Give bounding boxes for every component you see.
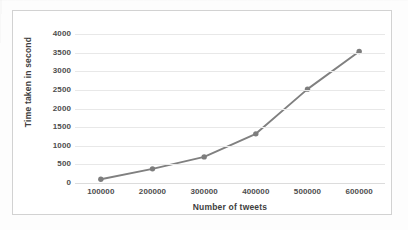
- data-point-100000: [98, 177, 103, 182]
- gridline-3000: [75, 71, 385, 72]
- gridline-500: [75, 164, 385, 165]
- x-axis-tick-labels: 100000200000300000400000500000600000: [75, 187, 385, 199]
- line-series-markers: [98, 49, 362, 182]
- y-tick-label-500: 500: [27, 160, 71, 168]
- gridline-4000: [75, 34, 385, 35]
- y-tick-label-3500: 3500: [27, 49, 71, 57]
- gridline-1000: [75, 146, 385, 147]
- y-tick-label-1500: 1500: [27, 123, 71, 131]
- gridline-0: [75, 183, 385, 184]
- data-point-200000: [150, 166, 155, 171]
- y-tick-label-3000: 3000: [27, 67, 71, 75]
- y-tick-label-2500: 2500: [27, 86, 71, 94]
- chart-frame: Time taken in second 0500100015002000250…: [12, 10, 392, 215]
- y-tick-label-4000: 4000: [27, 30, 71, 38]
- x-tick-label-600000: 600000: [329, 187, 389, 197]
- x-axis-title: Number of tweets: [75, 202, 385, 212]
- gridline-1500: [75, 127, 385, 128]
- y-tick-label-1000: 1000: [27, 142, 71, 150]
- data-point-300000: [201, 154, 206, 159]
- y-axis-tick-labels: 05001000150020002500300035004000: [23, 34, 71, 183]
- chart-figure: Time taken in second 0500100015002000250…: [0, 0, 408, 230]
- y-tick-label-0: 0: [27, 179, 71, 187]
- data-point-400000: [253, 131, 258, 136]
- gridline-2500: [75, 90, 385, 91]
- y-tick-label-2000: 2000: [27, 105, 71, 113]
- plot-area: [75, 34, 385, 183]
- gridline-2000: [75, 109, 385, 110]
- gridline-3500: [75, 53, 385, 54]
